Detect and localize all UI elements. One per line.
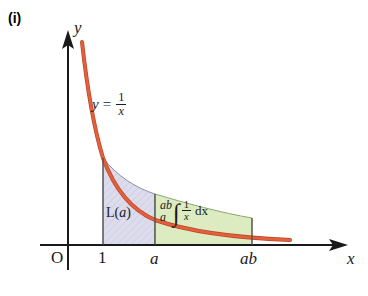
integrand-denominator: x bbox=[182, 210, 191, 222]
integral-lower-limit: a bbox=[160, 212, 172, 224]
curve-label-fraction: 1x bbox=[116, 91, 126, 118]
x-axis-label: x bbox=[347, 249, 355, 269]
curve-equation-label: y=1x bbox=[92, 92, 127, 119]
figure-container: (i) y x O 1 a ab y=1x L(a) aba∫1xdx bbox=[0, 0, 368, 296]
integral-differential: dx bbox=[195, 203, 208, 218]
part-label: (i) bbox=[8, 10, 21, 26]
integral-limits: aba bbox=[160, 200, 172, 224]
integral-sign-icon: ∫ bbox=[173, 199, 180, 226]
curve-label-numerator: 1 bbox=[116, 91, 126, 104]
region-integral-label: aba∫1xdx bbox=[160, 200, 208, 224]
x-tick-label-a: a bbox=[150, 249, 159, 269]
curve-label-equals: = bbox=[103, 96, 111, 112]
region-L-a-label: L(a) bbox=[106, 205, 131, 221]
integrand-fraction: 1x bbox=[182, 199, 191, 222]
curve-label-y: y bbox=[92, 96, 99, 112]
region-L-a-letter: L bbox=[106, 205, 115, 220]
region-L-a-paren-close: ) bbox=[126, 205, 131, 220]
y-axis-label: y bbox=[74, 18, 82, 38]
integrand-numerator: 1 bbox=[182, 199, 191, 210]
origin-label: O bbox=[51, 248, 63, 268]
x-tick-label-ab: ab bbox=[240, 249, 257, 269]
curve-label-denominator: x bbox=[116, 104, 126, 118]
x-tick-label-one: 1 bbox=[98, 248, 107, 268]
